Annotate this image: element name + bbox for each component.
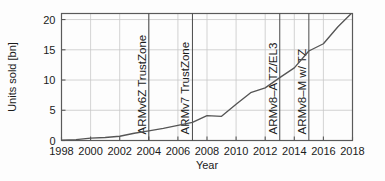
xtick-label-2004: 2004 xyxy=(137,145,161,157)
xtick-label-1998: 1998 xyxy=(49,145,73,157)
xtick-label-2016: 2016 xyxy=(311,145,335,157)
ytick-label-20: 20 xyxy=(43,14,55,26)
annotation-label-3: ARMv8–M w/ TZ xyxy=(296,49,308,134)
xtick-label-2014: 2014 xyxy=(282,145,306,157)
annotation-label-0: ARMv6Z TrustZone xyxy=(136,35,148,135)
ytick-label-5: 5 xyxy=(49,104,55,116)
ytick-label-15: 15 xyxy=(43,44,55,56)
xtick-label-2012: 2012 xyxy=(253,145,277,157)
xtick-label-2010: 2010 xyxy=(224,145,248,157)
ytick-label-10: 10 xyxy=(43,74,55,86)
y-axis-label: Units sold [bn] xyxy=(6,42,18,112)
xtick-label-2002: 2002 xyxy=(107,145,131,157)
xtick-label-2008: 2008 xyxy=(195,145,219,157)
units-sold-line-chart: 0510152019982000200220042006200820102012… xyxy=(0,0,385,181)
annotation-label-1: ARMv7 TrustZone xyxy=(179,42,191,135)
xtick-label-2006: 2006 xyxy=(166,145,190,157)
chart-figure: 0510152019982000200220042006200820102012… xyxy=(0,0,385,181)
x-axis-label: Year xyxy=(196,159,219,171)
annotation-label-2: ARMv8–A TZ/EL3 xyxy=(267,43,279,135)
xtick-label-2000: 2000 xyxy=(78,145,102,157)
xtick-label-2018: 2018 xyxy=(340,145,364,157)
